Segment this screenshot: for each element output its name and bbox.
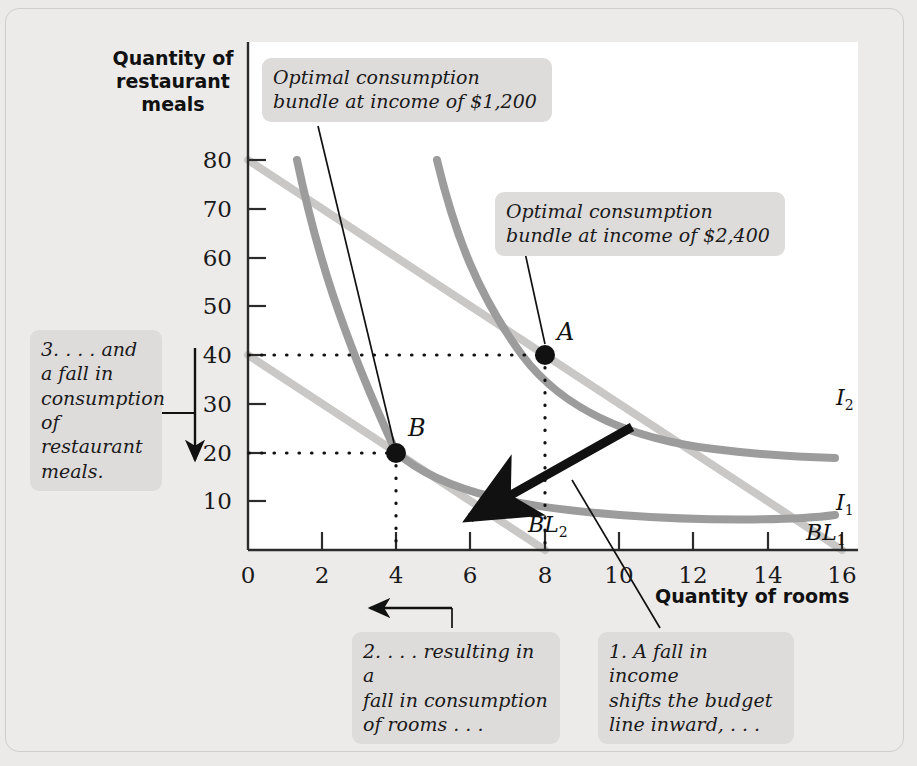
curve-label-bl1-sub: 1 bbox=[837, 532, 846, 548]
y-tick-label-60: 60 bbox=[186, 245, 232, 271]
y-tick-label-10: 10 bbox=[186, 488, 232, 514]
point-b-label: B bbox=[408, 414, 426, 442]
callout-optimal-2400-line-1: Optimal consumption bbox=[506, 199, 774, 223]
point-b-marker bbox=[386, 443, 406, 463]
figure-page: Quantity of restaurant meals Quantity of… bbox=[0, 0, 917, 766]
y-axis-ticks bbox=[248, 160, 266, 501]
callout-step-2-line-3: of rooms . . . bbox=[363, 712, 549, 736]
curve-label-i2-sub: 2 bbox=[845, 397, 854, 413]
y-tick-label-50: 50 bbox=[186, 293, 232, 319]
callout-step-2-line-1: 2. . . . resulting in a bbox=[363, 639, 549, 688]
callout-step-1-line-3: line inward, . . . bbox=[609, 712, 783, 736]
callout-step-1-line-2: shifts the budget bbox=[609, 688, 783, 712]
y-axis-title-line-3: meals bbox=[108, 93, 238, 116]
x-tick-label-6: 6 bbox=[447, 562, 493, 588]
y-tick-label-40: 40 bbox=[186, 342, 232, 368]
y-tick-label-30: 30 bbox=[186, 391, 232, 417]
y-axis-title-line-1: Quantity of bbox=[108, 47, 238, 70]
x-tick-label-4: 4 bbox=[373, 562, 419, 588]
x-tick-label-10: 10 bbox=[596, 562, 642, 588]
callout-optimal-1200-line-2: bundle at income of $1,200 bbox=[273, 89, 541, 113]
x-tick-label-8: 8 bbox=[522, 562, 568, 588]
curve-label-bl2: BL2 bbox=[528, 512, 568, 540]
curve-label-i2: I2 bbox=[836, 385, 854, 413]
curve-label-bl2-sub: 2 bbox=[559, 524, 568, 540]
curve-label-i1: I1 bbox=[836, 490, 854, 518]
point-a-label: A bbox=[557, 318, 574, 346]
y-tick-label-20: 20 bbox=[186, 440, 232, 466]
x-tick-label-16: 16 bbox=[819, 562, 865, 588]
x-axis-title: Quantity of rooms bbox=[655, 585, 875, 608]
callout-optimal-1200-line-1: Optimal consumption bbox=[273, 65, 541, 89]
callout-optimal-1200: Optimal consumption bundle at income of … bbox=[262, 58, 552, 122]
leader-line-optimal-2400 bbox=[524, 248, 545, 344]
y-axis-title-line-2: restaurant bbox=[108, 70, 238, 93]
callout-step-3-line-3: consumption bbox=[41, 386, 151, 410]
x-tick-label-2: 2 bbox=[299, 562, 345, 588]
callout-optimal-2400-line-2: bundle at income of $2,400 bbox=[506, 223, 774, 247]
curve-label-i1-text: I bbox=[836, 490, 845, 515]
callout-step-3-line-2: a fall in bbox=[41, 361, 151, 385]
callout-step-3: 3. . . . and a fall in consumption of re… bbox=[30, 330, 162, 491]
curve-label-bl1: BL1 bbox=[806, 520, 846, 548]
leader-line-step1 bbox=[572, 480, 660, 628]
callout-step-1: 1. A fall in income shifts the budget li… bbox=[598, 632, 794, 744]
x-axis-ticks bbox=[322, 532, 842, 550]
callout-step-1-line-1: 1. A fall in income bbox=[609, 639, 783, 688]
x-tick-label-12: 12 bbox=[670, 562, 716, 588]
curve-label-bl2-text: BL bbox=[528, 512, 559, 537]
y-tick-label-70: 70 bbox=[186, 196, 232, 222]
callout-optimal-2400: Optimal consumption bundle at income of … bbox=[495, 192, 785, 256]
callout-step-2: 2. . . . resulting in a fall in consumpt… bbox=[352, 632, 560, 744]
curve-label-i2-text: I bbox=[836, 385, 845, 410]
curve-label-i1-sub: 1 bbox=[845, 502, 854, 518]
y-tick-label-80: 80 bbox=[186, 147, 232, 173]
callout-step-3-line-4: of restaurant bbox=[41, 410, 151, 459]
callout-step-3-line-1: 3. . . . and bbox=[41, 337, 151, 361]
curve-label-bl1-text: BL bbox=[806, 520, 837, 545]
x-tick-label-14: 14 bbox=[745, 562, 791, 588]
callout-step-3-line-5: meals. bbox=[41, 459, 151, 483]
point-a-marker bbox=[535, 345, 555, 365]
callout-step-2-line-2: fall in consumption bbox=[363, 688, 549, 712]
y-axis-title: Quantity of restaurant meals bbox=[108, 47, 238, 117]
x-tick-label-0: 0 bbox=[225, 562, 271, 588]
